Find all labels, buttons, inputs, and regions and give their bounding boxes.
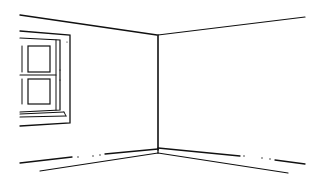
floor-baseboard <box>20 148 305 173</box>
right-wall <box>158 17 305 35</box>
room-illustration <box>0 0 319 187</box>
room-corner-drawing <box>0 0 319 187</box>
window <box>20 31 70 126</box>
